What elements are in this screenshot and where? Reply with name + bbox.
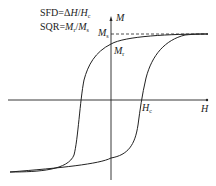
sfd-sub2: c (88, 13, 91, 19)
hc-label: Hc (142, 102, 152, 114)
sqr-prefix: SQR= (40, 21, 65, 32)
sfd-prefix: SFD=Δ (40, 7, 70, 18)
sfd-var2: H (80, 7, 87, 18)
sqr-var2: M (78, 21, 86, 32)
mr-sub: r (122, 51, 124, 57)
m-axis-label: M (116, 12, 124, 23)
m-axis-arrow-icon (110, 16, 113, 21)
sfd-formula: SFD=ΔH/Hc (40, 7, 90, 19)
ms-sub: s (106, 33, 108, 39)
sqr-formula: SQR=Mr/Ms (40, 21, 89, 33)
ms-label: Ms (98, 27, 109, 39)
ascending-branch (10, 34, 208, 172)
sqr-sub2: s (87, 27, 89, 33)
descending-branch (10, 34, 208, 172)
sfd-var1: H (70, 7, 77, 18)
hc-sub: c (149, 108, 152, 114)
h-axis-label: H (201, 103, 208, 114)
mr-label: Mr (114, 45, 124, 57)
h-axis-arrow-icon (206, 99, 208, 101)
